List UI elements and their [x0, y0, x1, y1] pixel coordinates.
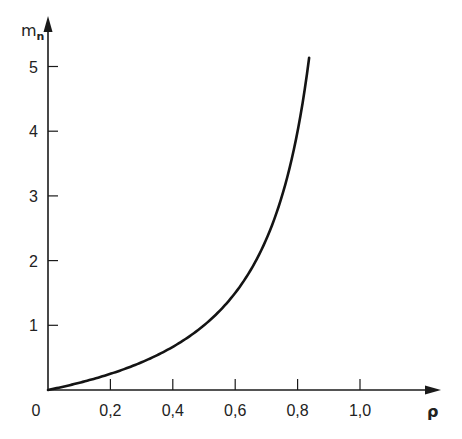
x-tick-label: 0,6 — [224, 402, 246, 419]
y-tick-label: 3 — [29, 188, 38, 205]
y-axis-arrow-icon — [44, 16, 53, 32]
y-axis-title-subscript: n — [37, 30, 45, 43]
x-tick-label: 0,4 — [162, 402, 184, 419]
y-axis — [44, 16, 53, 390]
x-axis-arrow-icon — [425, 386, 441, 395]
y-tick-label: 4 — [29, 123, 38, 140]
x-tick-label: 0,2 — [99, 402, 121, 419]
y-tick-label: 2 — [29, 253, 38, 270]
data-curve — [48, 58, 309, 390]
chart: 12345 0,20,40,60,81,0 0 mn ρ — [0, 0, 462, 439]
x-axis — [47, 386, 441, 395]
x-axis-title: ρ — [427, 402, 438, 421]
y-axis-title: mn — [21, 21, 44, 43]
x-tick-label: 0,8 — [286, 402, 308, 419]
y-tick-label: 1 — [29, 317, 38, 334]
x-tick-label: 1,0 — [349, 402, 371, 419]
x-ticks: 0,20,40,60,81,0 — [99, 379, 371, 419]
y-tick-label: 5 — [29, 59, 38, 76]
y-ticks: 12345 — [29, 59, 58, 335]
origin-label: 0 — [32, 402, 41, 419]
y-axis-title-main: m — [21, 21, 37, 40]
